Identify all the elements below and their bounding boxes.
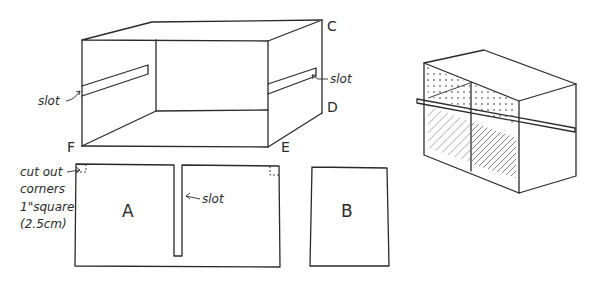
slot-label-right: slot [330, 72, 353, 86]
assembled-box-drawing [417, 50, 576, 193]
corner-label-d: D [327, 99, 338, 115]
arrow-icon [312, 75, 328, 79]
diagram-canvas: C D E F slot slot A slot cut out corners… [0, 0, 596, 283]
arrow-icon [186, 193, 200, 199]
note-line-3: 1"square [20, 200, 74, 214]
slot-label-left: slot [38, 94, 61, 108]
panel-a-drawing [75, 164, 280, 267]
cut-out-note: cut out corners 1"square (2.5cm) [20, 165, 80, 231]
note-line-4: (2.5cm) [20, 217, 67, 231]
corner-label-f: F [67, 139, 75, 155]
corner-label-c: C [327, 18, 337, 34]
corner-label-e: E [281, 139, 290, 155]
note-line-2: corners [20, 182, 65, 196]
panel-a-slot-label: slot [202, 192, 225, 206]
arrow-icon [66, 91, 80, 101]
open-box-drawing [82, 20, 322, 147]
note-line-1: cut out [20, 165, 64, 179]
panel-a-label: A [122, 201, 134, 221]
arrow-icon [67, 167, 80, 173]
panel-b-label: B [341, 201, 353, 221]
